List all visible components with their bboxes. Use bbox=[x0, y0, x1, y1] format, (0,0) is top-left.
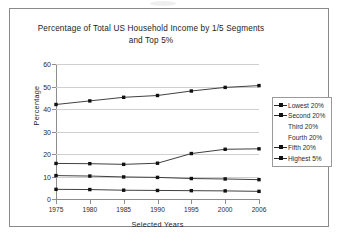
x-axis-tick-label: 1980 bbox=[82, 206, 97, 213]
legend-marker-icon bbox=[274, 143, 287, 152]
data-point-marker bbox=[88, 188, 91, 191]
chart-frame: Percentage of Total US Household Income … bbox=[9, 8, 329, 227]
data-point-marker bbox=[88, 162, 91, 165]
data-point-marker bbox=[54, 103, 57, 106]
x-axis-tick bbox=[259, 200, 260, 204]
legend-item[interactable]: Second 20% bbox=[274, 111, 329, 122]
data-point-marker bbox=[122, 163, 125, 166]
data-point-marker bbox=[223, 86, 226, 89]
data-point-marker bbox=[122, 175, 125, 178]
legend-marker-icon bbox=[274, 154, 287, 163]
x-axis-tick-label: 1995 bbox=[184, 206, 199, 213]
x-axis-tick bbox=[90, 200, 91, 204]
x-axis-tick-label: 1985 bbox=[116, 206, 131, 213]
y-axis-tick-label: 40 bbox=[43, 106, 51, 113]
data-point-marker bbox=[190, 89, 193, 92]
data-point-marker bbox=[223, 189, 226, 192]
data-point-marker bbox=[88, 174, 91, 177]
data-point-marker bbox=[156, 189, 159, 192]
x-axis-tick-label: 2000 bbox=[218, 206, 233, 213]
data-point-marker bbox=[54, 162, 57, 165]
legend-marker-icon bbox=[274, 133, 287, 142]
series-layer bbox=[56, 64, 259, 199]
x-axis-tick-labels: 1975198019851990199520002006 bbox=[56, 206, 259, 218]
legend-item-label: Fifth 20% bbox=[287, 144, 316, 151]
data-point-marker bbox=[190, 177, 193, 180]
chart-page: Percentage of Total US Household Income … bbox=[0, 0, 340, 237]
data-point-marker bbox=[257, 84, 260, 87]
legend-item[interactable]: Fourth 20% bbox=[274, 132, 329, 143]
data-point-marker bbox=[190, 152, 193, 155]
scan-artifact bbox=[150, 1, 176, 6]
legend-marker-icon bbox=[274, 111, 287, 120]
y-axis-tick-labels: 0102030405060 bbox=[32, 64, 51, 199]
x-axis-tick bbox=[158, 200, 159, 204]
data-point-marker bbox=[122, 189, 125, 192]
x-axis-tick bbox=[225, 200, 226, 204]
y-axis-tick-label: 10 bbox=[43, 173, 51, 180]
data-point-marker bbox=[190, 189, 193, 192]
chart-title-line-2: and Top 5% bbox=[28, 35, 274, 47]
chart-title: Percentage of Total US Household Income … bbox=[28, 23, 274, 46]
legend-item-label: Highest 5% bbox=[287, 155, 322, 162]
y-axis-tick-label: 30 bbox=[43, 128, 51, 135]
data-point-marker bbox=[156, 162, 159, 165]
legend-marker-icon bbox=[274, 122, 287, 131]
x-axis-title: Selected Years bbox=[56, 220, 259, 229]
x-axis-tick bbox=[56, 200, 57, 204]
data-point-marker bbox=[54, 174, 57, 177]
legend-item-label: Lowest 20% bbox=[287, 102, 324, 109]
data-point-marker bbox=[54, 188, 57, 191]
data-point-marker bbox=[223, 177, 226, 180]
legend-marker-icon bbox=[274, 101, 287, 110]
x-axis-tick-label: 2006 bbox=[252, 206, 267, 213]
y-axis-tick-label: 0 bbox=[47, 196, 51, 203]
data-point-marker bbox=[156, 176, 159, 179]
data-point-marker bbox=[88, 99, 91, 102]
legend-item-label: Third 20% bbox=[287, 123, 318, 130]
legend-item[interactable]: Lowest 20% bbox=[274, 100, 329, 111]
data-point-marker bbox=[223, 148, 226, 151]
legend-item[interactable]: Third 20% bbox=[274, 121, 329, 132]
legend-item-label: Fourth 20% bbox=[287, 134, 322, 141]
data-point-marker bbox=[257, 190, 260, 193]
x-axis-tick bbox=[124, 200, 125, 204]
data-point-marker bbox=[257, 178, 260, 181]
y-axis-tick-label: 60 bbox=[43, 61, 51, 68]
data-point-marker bbox=[156, 94, 159, 97]
x-axis-ticks bbox=[56, 200, 259, 205]
chart-legend[interactable]: Lowest 20%Second 20%Third 20%Fourth 20%F… bbox=[272, 97, 332, 167]
legend-item[interactable]: Fifth 20% bbox=[274, 142, 329, 153]
legend-item[interactable]: Highest 5% bbox=[274, 153, 329, 164]
data-point-marker bbox=[122, 96, 125, 99]
data-point-marker bbox=[257, 147, 260, 150]
y-axis-tick-label: 50 bbox=[43, 83, 51, 90]
chart-title-line-1: Percentage of Total US Household Income … bbox=[28, 23, 274, 35]
x-axis-tick-label: 1990 bbox=[150, 206, 165, 213]
x-axis-tick bbox=[191, 200, 192, 204]
y-axis-tick-label: 20 bbox=[43, 151, 51, 158]
legend-item-label: Second 20% bbox=[287, 112, 325, 119]
x-axis-tick-label: 1975 bbox=[49, 206, 64, 213]
